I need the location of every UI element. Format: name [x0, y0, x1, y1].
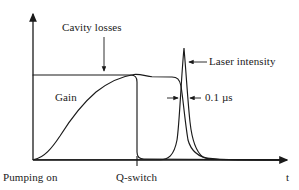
- gain-label: Gain: [55, 92, 77, 103]
- laser-intensity-label: Laser intensity: [209, 56, 276, 67]
- q-switch-label: Q-switch: [116, 172, 157, 183]
- cavity-losses-label: Cavity losses: [62, 22, 122, 33]
- q-switched-laser-figure: Cavity losses Gain Laser intensity 0.1 µ…: [0, 0, 299, 190]
- pumping-on-label: Pumping on: [3, 172, 57, 183]
- cavity-loss-line: [33, 75, 285, 160]
- gain-curve: [34, 74, 285, 160]
- pulse-width-label: 0.1 µs: [205, 92, 233, 103]
- plot-canvas: [0, 0, 299, 190]
- x-axis-label: t: [286, 172, 289, 183]
